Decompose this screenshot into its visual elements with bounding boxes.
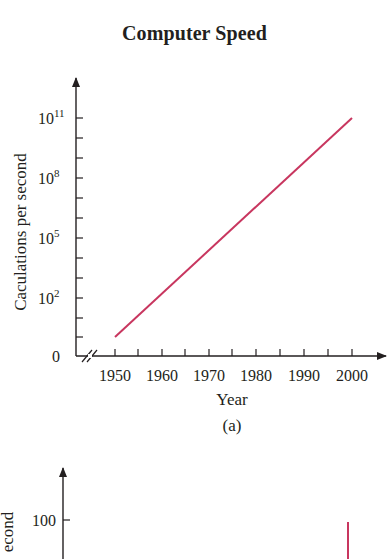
x-ticks bbox=[115, 349, 352, 356]
chart-canvas: 1011 108 105 102 0 Caculations per secon… bbox=[0, 0, 389, 559]
y-tick-label-11: 1011 bbox=[38, 107, 65, 127]
x-axis-label: Year bbox=[216, 390, 248, 409]
panel-caption-a: (a) bbox=[223, 416, 242, 435]
x-tick-label: 2000 bbox=[336, 367, 368, 384]
y-tick-label-100: 100 bbox=[32, 512, 56, 529]
y-tick-label-0: 0 bbox=[52, 348, 60, 365]
x-tick-label: 1980 bbox=[240, 367, 272, 384]
chart-b: 100 econd bbox=[0, 468, 348, 559]
y-tick-label-2: 102 bbox=[38, 287, 60, 307]
data-line bbox=[115, 118, 352, 337]
y-ticks bbox=[76, 118, 83, 337]
y-tick-label-8: 108 bbox=[38, 167, 60, 187]
x-tick-label: 1950 bbox=[99, 367, 131, 384]
x-tick-label: 1990 bbox=[288, 367, 320, 384]
y-tick-label-5: 105 bbox=[38, 227, 60, 247]
y-axis-label: Caculations per second bbox=[11, 153, 30, 311]
x-tick-label: 1960 bbox=[146, 367, 178, 384]
y-axis-label-b: econd bbox=[0, 511, 17, 552]
chart-a: 1011 108 105 102 0 Caculations per secon… bbox=[11, 78, 386, 435]
x-tick-label: 1970 bbox=[193, 367, 225, 384]
